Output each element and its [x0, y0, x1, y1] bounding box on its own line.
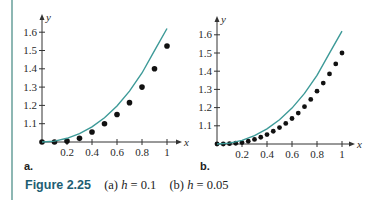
y-tick-label: 1.4 — [23, 62, 37, 74]
data-point — [271, 129, 276, 134]
y-tick-label: 1.1 — [23, 117, 37, 129]
x-tick-label: 1 — [339, 148, 345, 160]
data-point — [139, 84, 145, 90]
chart-a: yx1.11.21.31.41.51.60.20.40.60.81 — [23, 11, 189, 158]
y-axis-label: y — [220, 13, 226, 25]
data-point — [258, 135, 263, 140]
x-axis-arrow-icon — [176, 140, 182, 145]
y-tick-label: 1.2 — [198, 101, 212, 113]
caption-part-a: (a) h = 0.1 — [104, 178, 156, 192]
data-point — [127, 100, 133, 106]
x-tick-label: 0.2 — [60, 146, 74, 158]
data-point — [152, 66, 158, 72]
figure-canvas: yx1.11.21.31.41.51.60.20.40.60.81 yx1.11… — [0, 0, 377, 200]
data-point — [277, 125, 282, 130]
data-point — [102, 121, 108, 127]
y-tick-label: 1.2 — [23, 99, 37, 111]
data-point — [333, 62, 338, 67]
x-tick-label: 0.8 — [310, 148, 324, 160]
y-axis-label: y — [45, 11, 51, 23]
y-tick-label: 1.3 — [23, 81, 37, 93]
data-point — [114, 112, 120, 118]
panel-label-b: b. — [200, 160, 210, 172]
y-tick-label: 1.6 — [23, 26, 37, 38]
x-axis-label: x — [356, 138, 362, 150]
y-tick-label: 1.1 — [198, 119, 212, 131]
data-point — [296, 111, 301, 116]
x-axis-label: x — [183, 136, 189, 148]
x-tick-label: 0.4 — [260, 148, 274, 160]
x-tick-label: 1 — [164, 146, 170, 158]
data-point — [315, 89, 320, 94]
y-axis-arrow-icon — [40, 14, 45, 20]
x-tick-label: 0.6 — [285, 148, 299, 160]
y-tick-label: 1.6 — [198, 28, 212, 40]
data-point — [290, 116, 295, 121]
data-point — [340, 51, 345, 56]
data-point — [283, 121, 288, 126]
x-tick-label: 0.8 — [135, 146, 149, 158]
caption-part-b: (b) h = 0.05 — [169, 178, 228, 192]
data-point — [265, 132, 270, 137]
data-point — [321, 81, 326, 86]
x-tick-label: 0.6 — [110, 146, 124, 158]
data-point — [89, 129, 95, 135]
y-tick-label: 1.5 — [23, 44, 37, 56]
figure-number: Figure 2.25 — [25, 178, 91, 192]
y-tick-label: 1.5 — [198, 47, 212, 59]
panel-label-a: a. — [24, 160, 33, 172]
figure-caption: Figure 2.25 (a) h = 0.1 (b) h = 0.05 — [25, 178, 239, 193]
data-point — [164, 43, 170, 49]
y-axis-arrow-icon — [215, 16, 220, 22]
x-tick-label: 0.2 — [235, 148, 249, 160]
data-point — [77, 136, 83, 142]
y-tick-label: 1.3 — [198, 83, 212, 95]
chart-b: yx1.11.21.31.41.51.60.20.40.60.81 — [198, 13, 362, 160]
data-point — [252, 137, 257, 142]
data-point — [308, 97, 313, 102]
x-tick-label: 0.4 — [85, 146, 99, 158]
x-axis-arrow-icon — [349, 142, 355, 147]
data-point — [327, 72, 332, 77]
y-tick-label: 1.4 — [198, 65, 212, 77]
data-point — [246, 139, 251, 144]
data-point — [302, 104, 307, 109]
